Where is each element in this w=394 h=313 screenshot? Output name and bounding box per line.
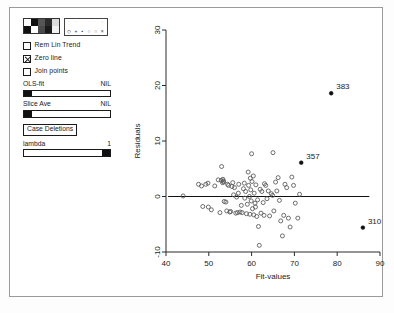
y-tick-label: 30: [153, 25, 162, 34]
color-swatch[interactable]: [38, 26, 45, 33]
data-point[interactable]: [275, 189, 279, 193]
checkbox-icon[interactable]: [23, 42, 31, 50]
data-point[interactable]: [257, 243, 261, 247]
symbol-glyph[interactable]: ·: [88, 21, 89, 25]
data-point[interactable]: [256, 198, 260, 202]
data-point[interactable]: [288, 225, 292, 229]
data-point[interactable]: [237, 182, 241, 186]
slider-control[interactable]: lambda1: [23, 141, 111, 157]
symbol-palette[interactable]: ·····○◇+▪○○×: [64, 18, 108, 36]
data-point[interactable]: [218, 211, 222, 215]
data-point[interactable]: [274, 180, 278, 184]
data-point[interactable]: [272, 209, 276, 213]
color-swatch[interactable]: [31, 26, 38, 33]
data-point[interactable]: [282, 213, 286, 217]
data-point[interactable]: [254, 183, 258, 187]
application-window: ·····○◇+▪○○× Rem Lin TrendZero lineJoin …: [0, 0, 394, 313]
data-point[interactable]: [252, 191, 256, 195]
data-point[interactable]: [201, 204, 205, 208]
symbol-glyph[interactable]: ◇: [67, 29, 71, 34]
data-point[interactable]: [246, 170, 250, 174]
data-point[interactable]: [241, 187, 245, 191]
slider-thumb[interactable]: [24, 111, 32, 117]
data-point[interactable]: [277, 198, 281, 202]
data-point-highlighted[interactable]: [361, 226, 365, 230]
slider-control[interactable]: OLS-fitNIL: [23, 81, 111, 97]
color-swatch[interactable]: [45, 19, 52, 26]
data-point[interactable]: [249, 199, 253, 203]
checkbox-row[interactable]: Zero line: [23, 55, 111, 63]
data-point[interactable]: [262, 213, 266, 217]
color-swatch[interactable]: [31, 19, 38, 26]
slider-track[interactable]: [23, 149, 111, 157]
data-point[interactable]: [256, 224, 260, 228]
data-point[interactable]: [209, 208, 213, 212]
slider-control[interactable]: Slice AveNIL: [23, 101, 111, 117]
color-swatch[interactable]: [38, 19, 45, 26]
data-point[interactable]: [261, 201, 265, 205]
data-point[interactable]: [239, 203, 243, 207]
data-point[interactable]: [235, 195, 239, 199]
data-point[interactable]: [242, 181, 246, 185]
data-point[interactable]: [265, 197, 269, 201]
slider-thumb[interactable]: [102, 150, 110, 156]
checkbox-label: Rem Lin Trend: [35, 42, 81, 49]
data-point[interactable]: [296, 216, 300, 220]
data-point[interactable]: [236, 191, 240, 195]
symbol-glyph[interactable]: ·: [75, 21, 76, 25]
x-tick-label: 60: [247, 259, 256, 268]
data-point[interactable]: [247, 183, 251, 187]
symbol-glyph[interactable]: ○: [94, 29, 97, 34]
symbol-glyph[interactable]: +: [74, 29, 77, 34]
color-swatch[interactable]: [52, 26, 59, 33]
checkbox-row[interactable]: Rem Lin Trend: [23, 42, 111, 50]
data-point[interactable]: [245, 202, 249, 206]
checkbox-checked-icon[interactable]: [23, 55, 31, 63]
x-tick-label: 40: [162, 259, 171, 268]
data-point[interactable]: [286, 216, 290, 220]
data-point[interactable]: [276, 176, 280, 180]
slider-track[interactable]: [23, 110, 111, 118]
symbol-glyph[interactable]: ·: [95, 21, 96, 25]
data-point[interactable]: [285, 186, 289, 190]
data-point[interactable]: [251, 174, 255, 178]
data-point[interactable]: [268, 214, 272, 218]
symbol-glyph[interactable]: ○: [101, 21, 103, 25]
symbol-glyph[interactable]: ○: [88, 29, 91, 34]
data-point[interactable]: [292, 183, 296, 187]
residual-plot[interactable]: -100102030Residuals405060708090Fit-value…: [114, 20, 386, 298]
data-point-highlighted[interactable]: [299, 161, 303, 165]
data-point[interactable]: [279, 219, 283, 223]
color-swatch[interactable]: [45, 26, 52, 33]
data-point[interactable]: [181, 194, 185, 198]
color-swatch[interactable]: [24, 19, 31, 26]
data-point[interactable]: [271, 151, 275, 155]
symbol-glyph[interactable]: ▪: [82, 29, 84, 34]
symbol-glyph[interactable]: ·: [69, 21, 70, 25]
data-point[interactable]: [298, 192, 302, 196]
symbol-glyph[interactable]: ·: [82, 21, 83, 25]
checkbox-icon[interactable]: [23, 68, 31, 76]
data-point[interactable]: [293, 201, 297, 205]
color-palette[interactable]: [23, 18, 60, 34]
data-point[interactable]: [290, 175, 294, 179]
data-point[interactable]: [231, 181, 235, 185]
slider-track[interactable]: [23, 90, 111, 98]
data-point[interactable]: [213, 184, 217, 188]
color-swatch[interactable]: [24, 26, 31, 33]
checkbox-row[interactable]: Join points: [23, 68, 111, 76]
y-axis-title: Residuals: [133, 123, 142, 158]
data-point[interactable]: [280, 234, 284, 238]
slider-thumb[interactable]: [24, 91, 32, 97]
data-point-highlighted[interactable]: [329, 91, 333, 95]
data-point[interactable]: [244, 190, 248, 194]
color-swatch[interactable]: [52, 19, 59, 26]
data-point[interactable]: [250, 180, 254, 184]
case-deletions-button[interactable]: Case Deletions: [23, 124, 77, 136]
y-tick-label: 0: [153, 194, 162, 199]
symbol-glyph[interactable]: ×: [101, 29, 104, 34]
point-label: 357: [306, 152, 320, 161]
data-point[interactable]: [220, 165, 224, 169]
data-point[interactable]: [249, 188, 253, 192]
data-point[interactable]: [250, 152, 254, 156]
